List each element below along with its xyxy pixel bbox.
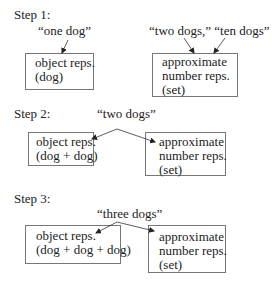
approx-box-line-1: approximate [162,55,237,69]
step-3-approx-number-reps-box: approximate number reps. (set) [148,225,226,273]
object-box-line-1: object reps. [36,135,93,149]
object-box-line-2: (dog + dog) [36,149,93,163]
approx-box-line-2: number reps. [159,149,225,163]
approx-box-line-1: approximate [159,230,225,244]
step-3-quote-three-dogs: “three dogs” [97,207,162,221]
object-box-line-1: object reps. [36,229,120,243]
object-box-line-2: (dog + dog + dog) [36,243,120,257]
step-1-quote-one-dog: “one dog” [38,24,91,38]
step-2-approx-number-reps-box: approximate number reps. (set) [145,132,226,176]
approx-box-line-2: number reps. [159,244,225,258]
step-2-object-reps-box: object reps. (dog + dog) [28,132,94,166]
approx-box-line-1: approximate [159,135,225,149]
approx-box-line-3: (set) [159,163,225,177]
approx-box-line-2: number reps. [162,69,237,83]
arrow-ten-dogs-to-approx [214,38,225,53]
step-1-quote-two-ten-dogs: “two dogs,” “ten dogs” [149,24,270,38]
object-box-line-1: object reps. [35,56,93,70]
object-box-line-2: (dog) [35,70,93,84]
step-3-label: Step 3: [14,192,50,206]
step-2-label: Step 2: [14,107,50,121]
step-1-object-reps-box: object reps. (dog) [25,53,94,90]
arrow-one-dog-to-object [62,40,68,53]
approx-box-line-3: (set) [159,258,225,272]
approx-box-line-3: (set) [162,83,237,97]
step-3-object-reps-box: object reps. (dog + dog + dog) [25,225,121,264]
step-1-label: Step 1: [14,8,50,22]
arrow-two-dogs-to-approx [184,38,194,53]
step-2-quote-two-dogs: “two dogs” [97,107,156,121]
step-1-approx-number-reps-box: approximate number reps. (set) [152,53,238,97]
